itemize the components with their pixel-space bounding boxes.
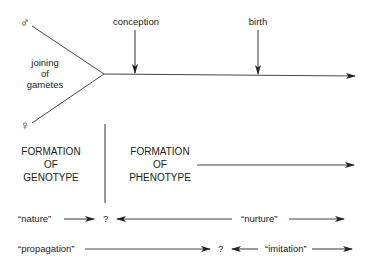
joining-of-gametes-label: joining of gametes [27, 57, 63, 90]
joining-line-3: gametes [27, 79, 63, 90]
nature-question-mark: ? [103, 213, 108, 224]
joining-line-2: of [27, 68, 63, 79]
nurture-label: “nurture” [241, 213, 277, 224]
phenotype-line-1: FORMATION [129, 145, 191, 158]
imitation-label: “imitation” [265, 243, 307, 254]
genotype-line-3: GENOTYPE [21, 171, 80, 184]
female-symbol-icon: ♀ [20, 119, 30, 132]
propagation-label: “propagation” [18, 243, 75, 254]
timeline-arrow [104, 74, 355, 76]
phenotype-line-3: PHENOTYPE [129, 171, 191, 184]
formation-of-genotype-label: FORMATION OF GENOTYPE [21, 145, 80, 184]
conception-label: conception [113, 16, 159, 27]
genotype-line-2: OF [21, 158, 80, 171]
nature-label: “nature” [18, 213, 51, 224]
propagation-question-mark: ? [218, 243, 223, 254]
birth-label: birth [249, 16, 267, 27]
genotype-line-1: FORMATION [21, 145, 80, 158]
phenotype-line-2: OF [129, 158, 191, 171]
diagram-lines [0, 0, 370, 269]
formation-of-phenotype-label: FORMATION OF PHENOTYPE [129, 145, 191, 184]
male-symbol-icon: ♂ [20, 16, 30, 29]
joining-line-1: joining [27, 57, 63, 68]
